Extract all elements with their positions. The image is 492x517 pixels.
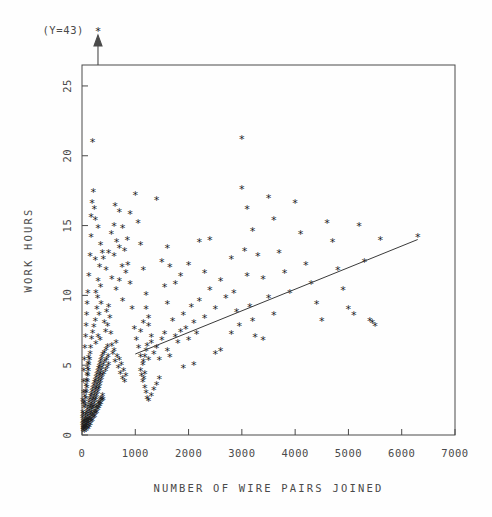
data-point-group: ****************************************…: [79, 133, 421, 439]
data-point: *: [271, 309, 278, 322]
data-point: *: [156, 354, 163, 367]
data-point: *: [324, 217, 331, 230]
data-point: *: [297, 228, 304, 241]
data-point: *: [414, 231, 421, 244]
data-point: *: [100, 394, 107, 407]
data-point: *: [340, 284, 347, 297]
scatter-plot-figure: 010002000300040005000600070000510152025N…: [0, 0, 492, 517]
data-point: *: [169, 315, 176, 328]
data-point: *: [137, 239, 144, 252]
data-point: *: [159, 256, 166, 269]
data-point: *: [140, 264, 147, 277]
data-point: *: [89, 197, 96, 210]
data-point: *: [119, 295, 126, 308]
data-point: *: [201, 312, 208, 325]
x-tick-label: 7000: [441, 447, 468, 459]
data-point: *: [156, 373, 163, 386]
outlier-marker: *: [95, 25, 102, 38]
data-point: *: [175, 337, 182, 350]
data-point: *: [79, 412, 86, 425]
data-point: *: [161, 328, 168, 341]
data-point: *: [223, 292, 230, 305]
data-point: *: [236, 320, 243, 333]
x-tick-label: 4000: [281, 447, 308, 459]
data-point: *: [239, 133, 246, 146]
x-tick-label: 1000: [122, 447, 149, 459]
data-point: *: [143, 289, 150, 302]
data-point: *: [177, 270, 184, 283]
y-tick-label: 5: [61, 362, 73, 369]
data-point: *: [145, 320, 152, 333]
data-point: *: [207, 234, 214, 247]
data-point: *: [308, 278, 315, 291]
data-point: *: [249, 225, 256, 238]
data-point: *: [79, 395, 86, 408]
data-point: *: [244, 203, 251, 216]
data-point: *: [191, 359, 198, 372]
y-tick-label: 0: [61, 432, 73, 439]
data-point: *: [106, 312, 113, 325]
data-point: *: [372, 320, 379, 333]
data-point: *: [94, 292, 101, 305]
data-point: *: [196, 295, 203, 308]
data-point: *: [265, 192, 272, 205]
x-tick-label: 3000: [228, 447, 255, 459]
data-point: *: [86, 270, 93, 283]
data-point: *: [350, 309, 357, 322]
data-point: *: [302, 259, 309, 272]
data-point: *: [89, 136, 96, 149]
data-point: *: [276, 247, 283, 260]
data-point: *: [356, 220, 363, 233]
data-point: *: [164, 298, 171, 311]
data-point: *: [143, 303, 150, 316]
data-point: *: [88, 211, 95, 224]
data-point: *: [132, 189, 139, 202]
data-point: *: [88, 231, 95, 244]
data-point: *: [287, 287, 294, 300]
x-tick-label: 6000: [388, 447, 415, 459]
data-point: *: [207, 284, 214, 297]
data-point: *: [125, 259, 132, 272]
data-point: *: [377, 234, 384, 247]
data-point: *: [271, 214, 278, 227]
data-point: *: [260, 273, 267, 286]
x-tick-label: 0: [79, 447, 86, 459]
y-tick-label: 15: [61, 219, 73, 233]
data-point: *: [167, 261, 174, 274]
data-point: *: [129, 303, 136, 316]
data-point: *: [196, 236, 203, 249]
data-point: *: [161, 281, 168, 294]
data-point: *: [116, 275, 123, 288]
data-point: *: [185, 334, 192, 347]
data-point: *: [217, 345, 224, 358]
data-point: *: [185, 259, 192, 272]
data-point: *: [127, 278, 134, 291]
data-point: *: [188, 301, 195, 314]
x-axis-title: NUMBER OF WIRE PAIRS JOINED: [153, 482, 383, 494]
outlier-label: (Y=43): [42, 24, 84, 36]
data-point: *: [103, 264, 110, 277]
y-axis-title: WORK HOURS: [22, 207, 34, 292]
plot-svg: 010002000300040005000600070000510152025N…: [0, 0, 492, 517]
data-point: *: [116, 206, 123, 219]
x-tick-label: 2000: [175, 447, 202, 459]
data-point: *: [231, 287, 238, 300]
data-point: *: [122, 370, 129, 383]
data-point: *: [260, 334, 267, 347]
data-point: *: [100, 253, 107, 266]
data-point: *: [228, 253, 235, 266]
data-point: *: [281, 267, 288, 280]
y-tick-label: 20: [61, 149, 73, 163]
data-point: *: [255, 250, 262, 263]
data-point: *: [97, 239, 104, 252]
data-point: *: [244, 270, 251, 283]
data-point: *: [97, 281, 104, 294]
data-point: *: [249, 315, 256, 328]
x-tick-label: 5000: [335, 447, 362, 459]
data-point: *: [241, 245, 248, 258]
data-point: *: [108, 228, 115, 241]
data-point: *: [180, 309, 187, 322]
data-point: *: [201, 267, 208, 280]
data-point: *: [113, 337, 120, 350]
data-point: *: [119, 261, 126, 274]
